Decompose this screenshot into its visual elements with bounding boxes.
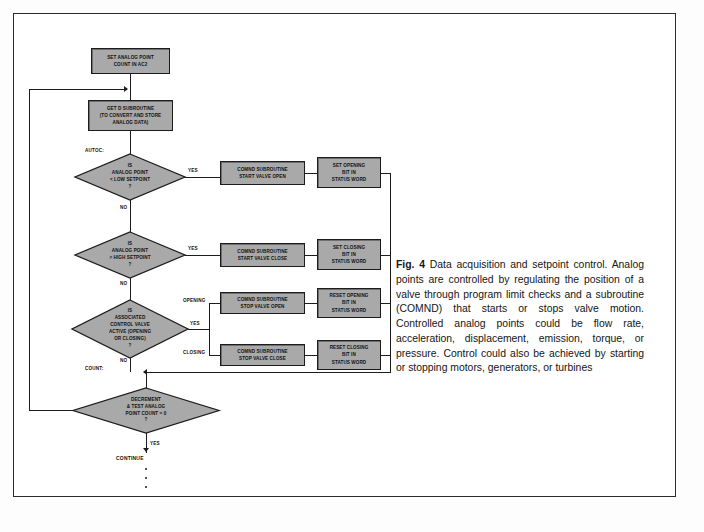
connector-resetopening-to-bus (381, 303, 390, 304)
label-no-low-setpoint: NO (120, 205, 127, 210)
node-reset-closing-bit: RESET CLOSING BIT IN STATUS WORD (317, 340, 381, 370)
connector-count-junction-to-diamond (146, 372, 147, 388)
label-yes-count-zero: YES (150, 441, 160, 446)
figure-caption-text: Data acquisition and setpoint control. A… (396, 259, 644, 373)
connector-opening-branch (209, 303, 220, 304)
label-count: COUNT: (85, 366, 103, 371)
node-decision-low-setpoint: IS ANALOG POINT < LOW SETPOINT ? (75, 154, 185, 200)
connector-getd-to-lowsetpoint (130, 131, 131, 154)
connector-startclose-to-setclosing (305, 255, 317, 256)
node-get-d-subroutine: GET D SUBROUTINE (TO CONVERT AND STORE A… (88, 100, 173, 131)
node-set-opening-bit: SET OPENING BIT IN STATUS WORD (317, 157, 381, 188)
node-comnd-stop-valve-open: COMND SUBROUTINE STOP VALVE OPEN (220, 292, 305, 314)
connector-stopclose-to-resetclosing (305, 355, 317, 356)
connector-valve-no (130, 358, 131, 372)
node-get-d-subroutine-label: GET D SUBROUTINE (TO CONVERT AND STORE A… (100, 105, 162, 126)
node-set-analog-point-count-label: SET ANALOG POINT COUNT IN AC2 (107, 54, 154, 68)
label-no-valve-active: NO (120, 358, 127, 363)
node-set-closing-bit-label: SET CLOSING BIT IN STATUS WORD (332, 244, 367, 265)
node-reset-opening-bit: RESET OPENING BIT IN STATUS WORD (317, 288, 381, 318)
node-decision-high-setpoint: IS ANALOG POINT > HIGH SETPOINT ? (75, 232, 185, 278)
diamond-shape-count-zero (73, 388, 219, 433)
figure-page: SET ANALOG POINT COUNT IN AC2 GET D SUBR… (0, 0, 704, 532)
connector-resetclosing-to-bus (381, 355, 390, 356)
continue-dot-2 (145, 477, 147, 479)
connector-setopening-to-bus (381, 173, 390, 174)
label-closing-branch: CLOSING (183, 350, 205, 355)
connector-startopen-to-setopening (305, 173, 317, 174)
connector-valve-yes (188, 329, 209, 330)
return-bus-vertical (390, 173, 391, 372)
connector-setclosing-to-bus (381, 255, 390, 256)
connector-valve-split-vertical (209, 303, 210, 355)
node-decision-valve-active: IS ASSOCIATED CONTROL VALVE ACTIVE (OPEN… (72, 300, 188, 358)
label-no-high-setpoint: NO (120, 281, 127, 286)
feedback-line-bottom (29, 410, 73, 411)
node-comnd-stop-valve-open-label: COMND SUBROUTINE STOP VALVE OPEN (237, 296, 287, 310)
node-decision-count-zero: DECREMENT & TEST ANALOG POINT COUNT = 0 … (73, 388, 219, 433)
return-bus-horizontal-to-count (147, 372, 391, 373)
connector-high-yes (185, 255, 220, 256)
label-yes-low-setpoint: YES (188, 168, 198, 173)
label-yes-valve-active: YES (190, 321, 200, 326)
node-comnd-start-valve-close-label: COMND SUBROUTINE START VALVE CLOSE (237, 248, 287, 262)
connector-count-to-getd (130, 74, 131, 100)
connector-low-no (130, 200, 131, 232)
node-set-opening-bit-label: SET OPENING BIT IN STATUS WORD (332, 162, 367, 183)
label-yes-high-setpoint: YES (188, 246, 198, 251)
arrowhead-to-continue (143, 448, 149, 452)
node-continue-terminal: CONTINUE (116, 455, 144, 461)
figure-caption: Fig. 4 Data acquisition and setpoint con… (396, 258, 644, 376)
diamond-shape-high-setpoint (75, 232, 185, 278)
continue-dot-3 (145, 486, 147, 488)
node-comnd-start-valve-open-label: COMND SUBROUTINE START VALVE OPEN (237, 166, 287, 180)
diamond-shape-valve-active (72, 300, 188, 358)
node-reset-opening-bit-label: RESET OPENING BIT IN STATUS WORD (330, 292, 369, 313)
feedback-line-top (29, 89, 127, 90)
node-comnd-stop-valve-close-label: COMND SUBROUTINE STOP VALVE CLOSE (237, 348, 287, 362)
node-set-closing-bit: SET CLOSING BIT IN STATUS WORD (317, 239, 381, 270)
node-comnd-stop-valve-close: COMND SUBROUTINE STOP VALVE CLOSE (220, 344, 305, 366)
diamond-shape-low-setpoint (75, 154, 185, 200)
figure-number: Fig. 4 (396, 259, 425, 270)
connector-high-no (130, 278, 131, 300)
connector-closing-branch (209, 355, 220, 356)
node-set-analog-point-count: SET ANALOG POINT COUNT IN AC2 (91, 48, 170, 74)
connector-low-yes (185, 177, 220, 178)
node-comnd-start-valve-open: COMND SUBROUTINE START VALVE OPEN (220, 161, 305, 185)
node-reset-closing-bit-label: RESET CLOSING BIT IN STATUS WORD (330, 344, 369, 365)
continue-dot-1 (145, 468, 147, 470)
feedback-line-left (29, 89, 30, 410)
label-opening-branch: OPENING (183, 298, 205, 303)
label-autoc: AUTOC: (85, 148, 104, 153)
node-comnd-start-valve-close: COMND SUBROUTINE START VALVE CLOSE (220, 243, 305, 267)
connector-stopopen-to-resetopening (305, 303, 317, 304)
